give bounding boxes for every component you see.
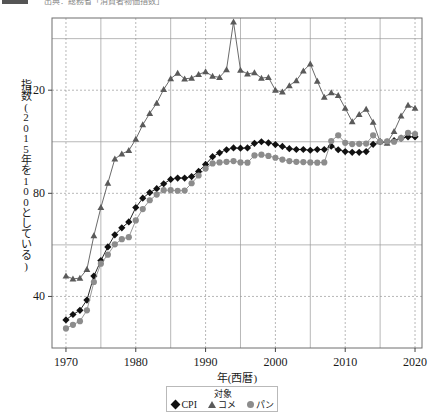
legend-label-rice: コメ xyxy=(218,398,236,411)
data-point-CPI xyxy=(300,146,307,153)
data-point-コメ xyxy=(139,121,146,127)
data-point-パン xyxy=(412,131,418,137)
data-point-パン xyxy=(293,159,299,165)
data-point-パン xyxy=(105,252,111,258)
data-point-コメ xyxy=(125,147,132,153)
data-point-CPI xyxy=(279,143,286,150)
data-point-CPI xyxy=(286,145,293,152)
data-point-パン xyxy=(140,206,146,212)
data-point-コメ xyxy=(293,77,300,83)
data-point-パン xyxy=(175,188,181,194)
data-point-コメ xyxy=(265,74,272,80)
tick-label-x: 1990 xyxy=(194,355,218,369)
data-point-パン xyxy=(223,159,229,165)
data-point-パン xyxy=(314,160,320,166)
data-point-コメ xyxy=(391,128,398,134)
data-point-パン xyxy=(300,159,306,165)
data-point-パン xyxy=(154,192,160,198)
data-point-パン xyxy=(307,159,313,165)
data-point-パン xyxy=(133,217,139,223)
data-point-パン xyxy=(363,140,369,146)
data-point-パン xyxy=(244,160,250,166)
data-point-CPI xyxy=(160,180,167,187)
data-point-コメ xyxy=(314,78,321,84)
data-point-コメ xyxy=(84,266,91,272)
data-point-CPI xyxy=(223,146,230,153)
data-point-パン xyxy=(384,138,390,144)
data-point-CPI xyxy=(314,146,321,153)
data-point-コメ xyxy=(63,272,70,278)
y-axis-title: 指数(2015年を100としている) xyxy=(21,78,32,272)
data-point-パン xyxy=(342,140,348,146)
data-point-パン xyxy=(391,139,397,145)
data-point-CPI xyxy=(62,316,69,323)
data-point-コメ xyxy=(412,105,419,111)
legend-label-bread: パン xyxy=(256,398,274,411)
triangle-marker-icon xyxy=(208,401,216,408)
data-point-コメ xyxy=(97,204,104,210)
data-point-パン xyxy=(356,141,362,147)
data-point-CPI xyxy=(307,147,314,154)
data-point-コメ xyxy=(342,105,349,111)
data-point-コメ xyxy=(237,67,244,73)
legend-item-rice[interactable]: コメ xyxy=(208,398,236,411)
data-point-パン xyxy=(189,180,195,186)
data-point-CPI xyxy=(251,140,258,147)
data-point-パン xyxy=(328,138,334,144)
data-point-コメ xyxy=(272,87,279,93)
data-point-CPI xyxy=(132,204,139,211)
data-point-パン xyxy=(168,187,174,193)
data-point-パン xyxy=(84,307,90,313)
data-point-CPI xyxy=(349,149,356,156)
data-point-コメ xyxy=(146,110,153,116)
data-point-コメ xyxy=(223,66,230,72)
data-point-パン xyxy=(405,130,411,136)
data-point-コメ xyxy=(167,75,174,81)
data-point-CPI xyxy=(153,185,160,192)
data-point-パン xyxy=(70,322,76,328)
legend-item-bread[interactable]: パン xyxy=(247,398,274,411)
tick-label-x: 1970 xyxy=(54,355,78,369)
data-point-コメ xyxy=(160,86,167,92)
tick-label-x: 1980 xyxy=(124,355,148,369)
data-point-CPI xyxy=(356,149,363,156)
data-point-パン xyxy=(112,241,118,247)
x-axis-title: 年(西暦) xyxy=(217,371,258,385)
data-point-パン xyxy=(196,172,202,178)
data-point-コメ xyxy=(405,102,412,108)
data-point-コメ xyxy=(335,92,342,98)
data-point-パン xyxy=(230,158,236,164)
data-point-コメ xyxy=(370,119,377,125)
data-point-コメ xyxy=(174,70,181,76)
data-point-コメ xyxy=(202,68,209,74)
data-point-コメ xyxy=(230,18,237,24)
data-point-パン xyxy=(321,159,327,165)
data-point-コメ xyxy=(363,106,370,112)
data-point-コメ xyxy=(118,150,125,156)
data-point-パン xyxy=(147,197,153,203)
legend-label-cpi: CPI xyxy=(181,399,197,410)
data-point-パン xyxy=(279,156,285,162)
tick-label-x: 2000 xyxy=(263,355,287,369)
circle-marker-icon xyxy=(247,401,254,408)
data-point-パン xyxy=(182,187,188,193)
data-point-パン xyxy=(91,279,97,285)
data-point-CPI xyxy=(293,146,300,153)
data-point-CPI xyxy=(237,145,244,152)
data-point-コメ xyxy=(398,113,405,119)
cpi-rice-bread-index-chart: 4080120197019801990200020102020年(西暦)指数(2… xyxy=(0,0,438,418)
legend-item-cpi[interactable]: CPI xyxy=(172,399,197,410)
data-point-コメ xyxy=(251,69,258,75)
data-point-パン xyxy=(258,152,264,158)
data-point-パン xyxy=(377,139,383,145)
data-point-パン xyxy=(161,187,167,193)
data-point-パン xyxy=(209,160,215,166)
data-point-パン xyxy=(251,152,257,158)
data-point-CPI xyxy=(181,175,188,182)
data-point-パン xyxy=(119,236,125,242)
data-point-パン xyxy=(216,159,222,165)
data-point-コメ xyxy=(153,100,160,106)
data-point-CPI xyxy=(216,149,223,156)
chart-legend: 対象 CPI コメ パン xyxy=(166,386,278,412)
data-point-コメ xyxy=(209,73,216,79)
